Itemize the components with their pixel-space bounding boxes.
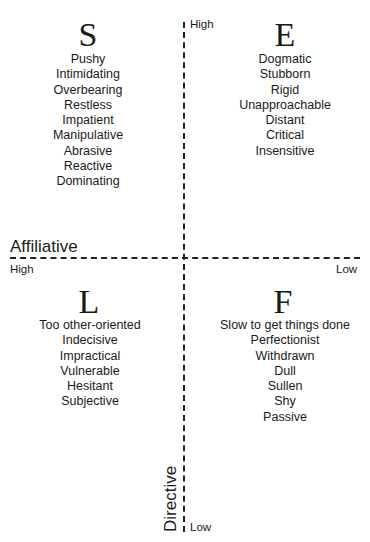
trait: Shy [205, 394, 365, 409]
trait: Overbearing [18, 83, 158, 98]
trait: Manipulative [18, 128, 158, 143]
trait-list-f: Slow to get things done Perfectionist Wi… [205, 318, 365, 425]
quadrant-letter-l: L [69, 285, 109, 319]
vertical-axis-line [183, 22, 185, 532]
vertical-axis-high-label: High [190, 18, 214, 31]
trait: Dull [205, 364, 365, 379]
trait: Indecisive [10, 333, 170, 348]
trait: Insensitive [210, 144, 360, 159]
trait: Withdrawn [205, 349, 365, 364]
trait: Intimidating [18, 67, 158, 82]
horizontal-axis-line [10, 257, 360, 259]
trait: Vulnerable [10, 364, 170, 379]
vertical-axis-low-label: Low [190, 521, 211, 534]
trait: Perfectionist [205, 333, 365, 348]
trait: Unapproachable [210, 98, 360, 113]
trait: Too other-oriented [10, 318, 170, 333]
trait: Stubborn [210, 67, 360, 82]
trait: Dogmatic [210, 52, 360, 67]
quadrant-letter-s: S [68, 18, 108, 52]
trait: Critical [210, 128, 360, 143]
trait-list-e: Dogmatic Stubborn Rigid Unapproachable D… [210, 52, 360, 159]
trait-list-s: Pushy Intimidating Overbearing Restless … [18, 52, 158, 190]
trait: Reactive [18, 159, 158, 174]
trait: Sullen [205, 379, 365, 394]
quadrant-letter-f: F [263, 285, 303, 319]
trait: Passive [205, 410, 365, 425]
trait: Impatient [18, 113, 158, 128]
trait: Hesitant [10, 379, 170, 394]
vertical-axis-title: Directive [162, 466, 180, 532]
horizontal-axis-low-label: Low [336, 263, 357, 276]
trait: Subjective [10, 394, 170, 409]
trait: Rigid [210, 83, 360, 98]
trait: Distant [210, 113, 360, 128]
trait: Impractical [10, 349, 170, 364]
quadrant-letter-e: E [265, 18, 305, 52]
trait: Restless [18, 98, 158, 113]
horizontal-axis-high-label: High [10, 263, 34, 276]
trait: Pushy [18, 52, 158, 67]
horizontal-axis-title: Affiliative [10, 238, 78, 256]
trait: Slow to get things done [205, 318, 365, 333]
trait: Abrasive [18, 144, 158, 159]
trait: Dominating [18, 174, 158, 189]
trait-list-l: Too other-oriented Indecisive Impractica… [10, 318, 170, 410]
